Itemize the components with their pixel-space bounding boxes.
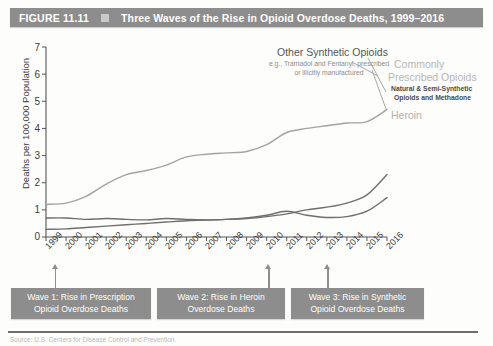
figure-container: FIGURE 11.11 Three Waves of the Rise in … bbox=[0, 0, 493, 346]
square-marker-icon bbox=[101, 14, 109, 22]
wave-3-arrow-head bbox=[324, 264, 330, 269]
annotation-synthetic-sub-2: or illicitly manufactured bbox=[259, 69, 399, 78]
annotation-commonly-1: Commonly bbox=[394, 58, 444, 70]
annotation-synthetic-sub-1: e.g., Tramadol and Fentanyl, prescribed bbox=[259, 60, 399, 69]
wave-1-callout: Wave 1: Rise in Prescription Opioid Over… bbox=[11, 288, 151, 319]
annotation-heroin: Heroin bbox=[391, 109, 422, 121]
annotation-commonly-2: Prescribed Opioids bbox=[388, 71, 477, 83]
series-line-0 bbox=[46, 109, 387, 204]
wave-1-arrow-head bbox=[52, 264, 58, 269]
wave-2-line-1: Wave 2: Rise in Heroin bbox=[177, 292, 265, 304]
wave-3-line-2: Opioid Overdose Deaths bbox=[309, 304, 407, 316]
wave-1-line-1: Wave 1: Rise in Prescription bbox=[27, 292, 135, 304]
figure-title: Three Waves of the Rise in Opioid Overdo… bbox=[121, 12, 444, 24]
wave-3-callout: Wave 3: Rise in Synthetic Opioid Overdos… bbox=[291, 288, 424, 319]
figure-number: FIGURE 11.11 bbox=[19, 12, 89, 24]
source-note: Source: U.S. Centers for Disease Control… bbox=[10, 336, 176, 343]
wave-2-line-2: Overdose Deaths bbox=[177, 304, 265, 316]
annotation-commonly-sub-2: Opioids and Methadone bbox=[394, 94, 471, 103]
wave-2-arrow-head bbox=[265, 264, 271, 269]
series-line-1 bbox=[46, 198, 387, 220]
bottom-rule bbox=[8, 331, 478, 333]
figure-title-bar: FIGURE 11.11 Three Waves of the Rise in … bbox=[10, 8, 483, 27]
wave-1-line-2: Opioid Overdose Deaths bbox=[27, 304, 135, 316]
wave-2-arrow-stem bbox=[268, 268, 270, 288]
series-line-2 bbox=[46, 175, 387, 230]
wave-1-arrow-stem bbox=[55, 268, 57, 288]
y-axis-ticks bbox=[42, 47, 46, 237]
chart-series-lines bbox=[46, 58, 387, 229]
annotation-commonly-sub-1: Natural & Semi-Synthetic bbox=[391, 85, 472, 94]
wave-3-line-1: Wave 3: Rise in Synthetic bbox=[309, 292, 407, 304]
wave-2-callout: Wave 2: Rise in Heroin Overdose Deaths bbox=[157, 288, 285, 319]
annotation-synthetic-title: Other Synthetic Opioids bbox=[277, 46, 388, 58]
wave-3-arrow-stem bbox=[327, 268, 329, 288]
chart-plot-area: Deaths per 100,000 Population 7 6 5 4 3 … bbox=[0, 30, 493, 270]
